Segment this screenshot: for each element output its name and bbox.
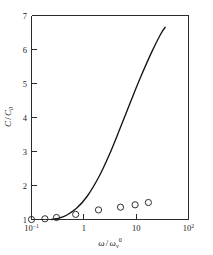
svg-text:ω/ωv0: ω/ωv0 [98, 236, 121, 249]
y-tick-label: 2 [23, 181, 27, 191]
chart-figure: 1 2 3 4 5 6 7 10−1 1 10 102 ω/ωv0 C/ [0, 0, 213, 255]
x-tick-label-one: 1 [82, 223, 86, 233]
y-tick-label: 7 [23, 11, 27, 21]
y-tick-label: 5 [23, 79, 27, 89]
x-axis-label: ω/ωv0 [98, 236, 121, 249]
chart-svg: 1 2 3 4 5 6 7 10−1 1 10 102 ω/ωv0 C/ [0, 0, 213, 255]
x-tick-label-ten: 10 [132, 223, 141, 233]
y-tick-label: 6 [23, 45, 27, 55]
y-tick-label: 3 [23, 147, 27, 157]
